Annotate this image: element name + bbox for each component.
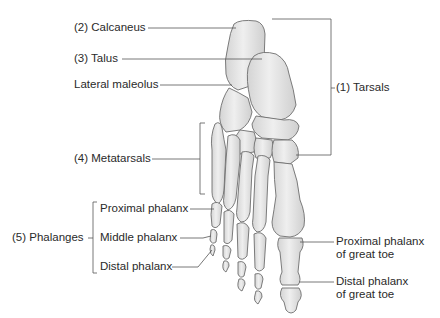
label-calcaneus: (2) Calcaneus xyxy=(74,21,146,34)
label-proximal-phalanx-great-toe-line1: Proximal phalanx xyxy=(336,235,424,248)
middle-phalanx-4-bone xyxy=(223,246,231,260)
label-middle-phalanx: Middle phalanx xyxy=(100,231,177,244)
phalanges-bracket xyxy=(93,202,97,273)
proximal-phalanx-5-bone xyxy=(211,202,222,227)
label-proximal-phalanx-great-toe: Proximal phalanx of great toe xyxy=(336,235,424,261)
metatarsal-1-bone xyxy=(272,162,305,237)
label-tarsals: (1) Tarsals xyxy=(336,81,389,94)
distal-phalanx-5-bone xyxy=(210,245,215,256)
label-distal-phalanx-great-toe: Distal phalanx of great toe xyxy=(336,275,408,301)
label-metatarsals: (4) Metatarsals xyxy=(74,152,151,165)
foot-skeleton-illustration xyxy=(0,0,440,318)
cuboid-bone xyxy=(220,88,252,132)
middle-phalanx-2-bone xyxy=(255,274,263,290)
distal-phalanx-4-bone xyxy=(223,261,229,272)
proximal-phalanx-2-bone xyxy=(254,233,266,271)
proximal-phalanx-great-toe-bone xyxy=(278,238,303,285)
medial-cuneiform-bone xyxy=(272,140,298,164)
proximal-phalanx-3-bone xyxy=(237,223,249,260)
label-talus: (3) Talus xyxy=(74,52,118,65)
distal-phalanx-2-bone xyxy=(254,291,262,304)
metatarsals-bracket xyxy=(200,123,205,194)
talus-bone xyxy=(247,52,296,120)
label-proximal-phalanx-great-toe-line2: of great toe xyxy=(336,248,424,261)
proximal-phalanx-4-bone xyxy=(224,210,234,243)
label-distal-phalanx-great-toe-line2: of great toe xyxy=(336,288,408,301)
navicular-bone xyxy=(252,116,299,140)
middle-phalanx-3-bone xyxy=(238,262,246,278)
label-phalanges: (5) Phalanges xyxy=(12,231,84,244)
distal-phalanx-great-toe-bone xyxy=(280,288,301,313)
intermediate-cuneiform-bone xyxy=(254,138,273,158)
label-lateral-maleolus: Lateral maleolus xyxy=(74,78,158,91)
middle-phalanx-leader xyxy=(180,236,211,238)
distal-phalanx-leader xyxy=(172,250,212,267)
label-distal-phalanx-great-toe-line1: Distal phalanx xyxy=(336,275,408,288)
distal-phalanx-3-bone xyxy=(238,279,245,291)
label-distal-phalanx: Distal phalanx xyxy=(100,260,172,273)
metatarsal-2-bone xyxy=(253,156,271,233)
label-proximal-phalanx: Proximal phalanx xyxy=(100,202,188,215)
foot-bones-diagram: (2) Calcaneus (3) Talus Lateral maleolus… xyxy=(0,0,440,318)
